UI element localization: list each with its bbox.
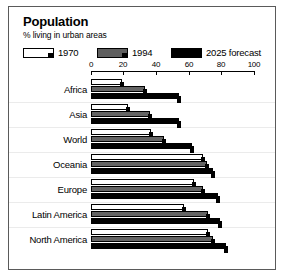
x-axis-tick-100 — [254, 71, 255, 75]
bar-group-oceania: Oceania — [0, 153, 286, 178]
bar-asia-1994 — [91, 111, 150, 117]
bar-group-asia: Asia — [0, 103, 286, 128]
category-label-europe: Europe — [0, 184, 87, 195]
bar-latin-america-1970 — [91, 204, 184, 210]
category-label-africa: Africa — [0, 84, 87, 95]
chart-plot-area: 0 20 40 60 80 100 Africa Asia World — [0, 0, 286, 279]
bar-world-2025 — [91, 143, 192, 149]
bar-oceania-1970 — [91, 154, 203, 160]
category-label-latin-america: Latin America — [0, 209, 87, 220]
x-axis-tick-0 — [91, 71, 92, 75]
category-label-asia: Asia — [0, 109, 87, 120]
bar-europe-2025 — [91, 193, 218, 199]
bar-europe-1970 — [91, 179, 194, 185]
x-axis-label-40: 40 — [145, 60, 167, 69]
bar-africa-1994 — [91, 86, 145, 92]
bar-latin-america-1994 — [91, 211, 208, 217]
bar-north-america-2025 — [91, 243, 226, 249]
x-axis-line — [91, 71, 254, 72]
bar-asia-1970 — [91, 104, 128, 110]
x-axis-label-60: 60 — [178, 60, 200, 69]
bar-oceania-2025 — [91, 168, 213, 174]
bar-group-world: World — [0, 128, 286, 153]
bar-africa-2025 — [91, 93, 179, 99]
x-axis-tick-40 — [156, 71, 157, 75]
bar-group-europe: Europe — [0, 178, 286, 203]
category-label-north-america: North America — [0, 234, 87, 245]
bar-world-1970 — [91, 129, 151, 135]
bar-world-1994 — [91, 136, 164, 142]
category-label-oceania: Oceania — [0, 159, 87, 170]
x-axis-label-0: 0 — [80, 60, 102, 69]
bar-north-america-1970 — [91, 229, 208, 235]
bar-africa-1970 — [91, 79, 122, 85]
bar-north-america-1994 — [91, 236, 213, 242]
bar-latin-america-2025 — [91, 218, 220, 224]
x-axis-tick-20 — [123, 71, 124, 75]
x-axis-label-100: 100 — [243, 60, 265, 69]
bar-group-africa: Africa — [0, 78, 286, 103]
bar-group-north-america: North America — [0, 228, 286, 253]
bar-europe-1994 — [91, 186, 203, 192]
x-axis-tick-80 — [221, 71, 222, 75]
bar-oceania-1994 — [91, 161, 207, 167]
x-axis-label-80: 80 — [210, 60, 232, 69]
bar-group-latin-america: Latin America — [0, 203, 286, 228]
bar-asia-2025 — [91, 118, 179, 124]
x-axis-label-20: 20 — [112, 60, 134, 69]
x-axis-tick-60 — [189, 71, 190, 75]
category-label-world: World — [0, 134, 87, 145]
